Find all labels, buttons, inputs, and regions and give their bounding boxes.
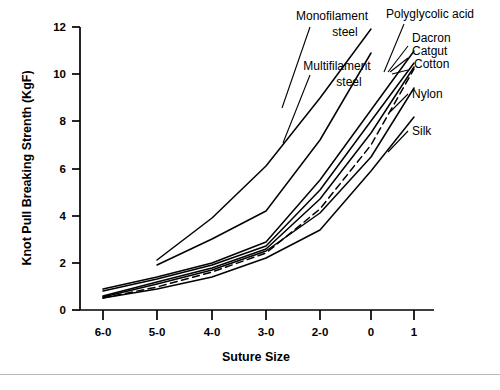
y-axis-title: Knot Pull Breaking Strenth (KgF) — [20, 70, 34, 265]
y-tick-label-0: 0 — [60, 304, 66, 316]
label-catgut: Catgut — [412, 44, 448, 58]
axis-lines — [80, 27, 434, 310]
x-tick-marks — [103, 310, 414, 320]
series-labels: Monofilament steel Multifilament steel P… — [296, 7, 474, 138]
curve-dacron — [103, 63, 414, 291]
x-tick-label-3-0: 3-0 — [258, 326, 275, 338]
label-polyglycolic-acid: Polyglycolic acid — [386, 7, 474, 21]
figure-container: 0 2 4 6 8 10 12 6-0 5-0 4-0 3-0 2-0 0 1 … — [0, 0, 500, 390]
suture-strength-chart: 0 2 4 6 8 10 12 6-0 5-0 4-0 3-0 2-0 0 1 … — [0, 0, 500, 390]
curve-cotton — [103, 69, 414, 298]
x-axis-title: Suture Size — [222, 350, 290, 364]
x-tick-label-2-0: 2-0 — [312, 326, 329, 338]
x-tick-label-4-0: 4-0 — [204, 326, 221, 338]
label-nylon: Nylon — [412, 87, 443, 101]
label-cotton: Cotton — [414, 57, 449, 71]
y-tick-label-4: 4 — [60, 210, 67, 222]
leader-dacron — [388, 46, 408, 72]
curve-silk — [103, 117, 414, 298]
label-multifilament-steel-line2: steel — [336, 75, 361, 89]
leader-silk — [388, 131, 408, 152]
label-monofilament-steel-line2: steel — [332, 25, 357, 39]
y-tick-label-8: 8 — [60, 115, 67, 127]
bottom-divider — [0, 374, 500, 375]
y-tick-label-12: 12 — [53, 21, 66, 33]
curve-nylon — [103, 88, 414, 297]
x-tick-label-1: 1 — [411, 326, 418, 338]
leader-multifilament-steel — [283, 75, 310, 143]
label-monofilament-steel-line1: Monofilament — [296, 9, 369, 23]
label-multifilament-steel-line1: Multifilament — [303, 59, 371, 73]
x-tick-label-6-0: 6-0 — [95, 326, 112, 338]
x-tick-label-5-0: 5-0 — [149, 326, 166, 338]
axis-group — [72, 27, 434, 320]
label-silk: Silk — [412, 124, 432, 138]
curve-catgut — [103, 67, 414, 296]
y-tick-label-10: 10 — [53, 68, 66, 80]
y-tick-marks — [72, 27, 80, 310]
label-dacron: Dacron — [412, 31, 451, 45]
y-tick-labels: 0 2 4 6 8 10 12 — [53, 21, 66, 316]
x-tick-labels: 6-0 5-0 4-0 3-0 2-0 0 1 — [95, 326, 418, 338]
y-tick-label-6: 6 — [60, 163, 66, 175]
y-tick-label-2: 2 — [60, 257, 66, 269]
x-tick-label-0: 0 — [368, 326, 374, 338]
